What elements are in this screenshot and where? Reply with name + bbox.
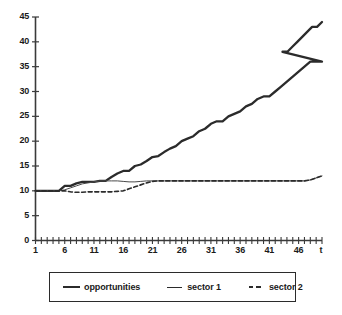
legend-item-opportunities[interactable]: opportunities — [63, 273, 140, 301]
line-chart: 051015202530354045 t 161116212631364146 … — [0, 0, 342, 315]
legend-label-sector-1: sector 1 — [187, 282, 221, 292]
x-axis-tick-label: 6 — [55, 245, 75, 255]
series-line-sector-2 — [36, 176, 323, 192]
data-series-group — [36, 22, 323, 192]
x-axis-tick-label: 31 — [201, 245, 221, 255]
y-axis-tick-label: 20 — [7, 136, 29, 145]
y-axis-tick-label: 15 — [7, 161, 29, 170]
y-axis-tick-label: 30 — [7, 87, 29, 96]
y-axis-tick-label: 25 — [7, 111, 29, 120]
legend-item-sector-2[interactable]: sector 2 — [248, 273, 303, 301]
axis-lines — [36, 17, 323, 241]
legend-label-opportunities: opportunities — [84, 282, 140, 292]
x-axis-tick-label: 21 — [142, 245, 162, 255]
x-axis-tick-label: 16 — [113, 245, 133, 255]
legend-dashed-line-icon-sector-2 — [248, 282, 265, 292]
x-axis-tick-label: 11 — [84, 245, 104, 255]
legend-line-icon-opportunities — [63, 282, 80, 292]
plot-svg — [0, 0, 342, 262]
series-line-opportunities — [36, 22, 323, 191]
x-axis-tick-labels: t 161116212631364146 — [0, 245, 342, 259]
y-axis-tick-labels: 051015202530354045 — [7, 0, 29, 250]
chart-legend: opportunities sector 1 sector 2 — [49, 272, 296, 302]
x-axis-tick-label: 46 — [289, 245, 309, 255]
plot-area: 051015202530354045 — [0, 0, 342, 262]
x-axis-tick-label: 36 — [230, 245, 250, 255]
y-axis-tick-label: 35 — [7, 62, 29, 71]
x-axis-tick-label: 41 — [259, 245, 279, 255]
legend-item-sector-1[interactable]: sector 1 — [166, 273, 221, 301]
y-axis-tick-label: 10 — [7, 186, 29, 195]
y-axis-tick-label: 45 — [7, 12, 29, 21]
y-axis-tick-label: 5 — [7, 211, 29, 220]
y-axis-tick-label: 40 — [7, 37, 29, 46]
legend-line-icon-sector-1 — [166, 282, 183, 292]
x-axis-tick-label: 26 — [172, 245, 192, 255]
y-axis-tick-label: 0 — [7, 236, 29, 245]
x-axis-tick-label: 1 — [26, 245, 46, 255]
x-axis-title: t — [313, 245, 329, 255]
legend-label-sector-2: sector 2 — [269, 282, 303, 292]
